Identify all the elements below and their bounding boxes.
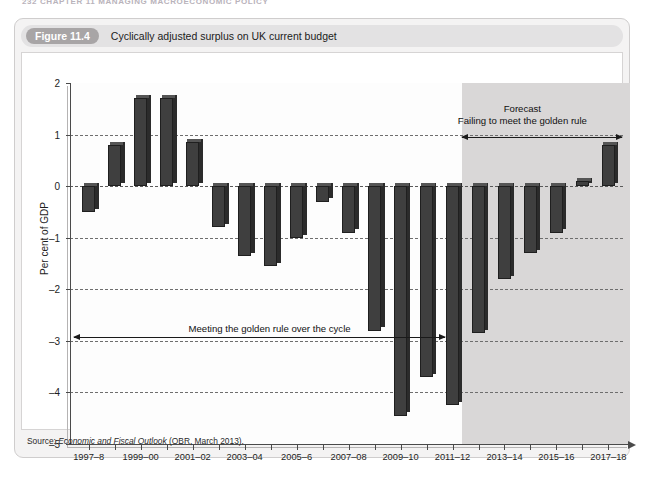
bar-side-face: [615, 142, 618, 183]
x-axis-shadow: [67, 447, 627, 448]
x-tick-label: 2009–10: [382, 452, 418, 462]
x-tick-label: 2005–6: [281, 452, 312, 462]
bar-side-face: [563, 183, 566, 229]
bar-side-face: [511, 183, 514, 276]
x-tick-mark: [530, 444, 531, 450]
y-tick-mark: [66, 238, 71, 239]
figure-title: Cyclically adjusted surplus on UK curren…: [111, 30, 337, 42]
bar[interactable]: [420, 186, 434, 377]
y-axis: [70, 83, 71, 444]
x-tick-mark: [401, 444, 402, 450]
bar-side-face: [95, 183, 98, 209]
bar-side-face: [303, 183, 306, 235]
x-tick-label: 2013–14: [486, 452, 522, 462]
figure-number-badge: Figure 11.4: [26, 28, 99, 45]
bar[interactable]: [446, 186, 460, 405]
x-axis-arrow-icon: [628, 441, 636, 449]
bar[interactable]: [264, 186, 278, 266]
bar[interactable]: [238, 186, 252, 256]
meeting-arrow-line: [74, 337, 445, 338]
x-tick-mark: [504, 444, 505, 450]
x-tick-mark: [349, 444, 350, 450]
bar[interactable]: [342, 186, 356, 232]
x-tick-mark: [375, 444, 376, 450]
y-tick-mark: [66, 186, 71, 187]
x-tick-mark: [582, 444, 583, 450]
bar[interactable]: [524, 186, 538, 253]
x-tick-mark: [297, 444, 298, 450]
y-tick-label: –4: [36, 387, 60, 398]
y-tick-mark: [66, 341, 71, 342]
bar[interactable]: [316, 186, 330, 201]
x-tick-label: 2017–18: [590, 452, 626, 462]
gridline: [70, 289, 623, 290]
y-tick-mark: [66, 392, 71, 393]
bar-side-face: [355, 183, 358, 229]
bar-side-face: [277, 183, 280, 263]
x-tick-label: 2001–02: [175, 452, 211, 462]
x-tick-mark: [323, 444, 324, 450]
failing-arrow-line: [462, 137, 622, 138]
gridline: [70, 341, 623, 342]
figure-card: Figure 11.4 Cyclically adjusted surplus …: [14, 18, 630, 458]
y-tick-mark: [66, 83, 71, 84]
bar[interactable]: [498, 186, 512, 279]
annotation-forecast: Forecast: [504, 103, 541, 114]
gridline: [70, 135, 623, 136]
source-rest: (OBR, March 2013).: [167, 436, 244, 446]
bar[interactable]: [212, 186, 226, 227]
meeting-arrow-left-head-icon: [73, 334, 80, 340]
bar[interactable]: [472, 186, 486, 333]
bar[interactable]: [602, 145, 616, 186]
bar-side-face: [459, 183, 462, 402]
bar-side-face: [225, 183, 228, 224]
source-note: Source: Economic and Fiscal Outlook (OBR…: [27, 436, 244, 446]
bar-side-face: [381, 183, 384, 327]
bar[interactable]: [186, 142, 200, 186]
x-tick-label: 2015–16: [538, 452, 574, 462]
x-tick-label: 1999–00: [123, 452, 159, 462]
x-tick-label: 2003–04: [227, 452, 263, 462]
annotation-meeting-golden-rule: Meeting the golden rule over the cycle: [188, 323, 350, 334]
annotation-failing-golden-rule: Failing to meet the golden rule: [458, 115, 587, 126]
y-tick-label: 1: [36, 129, 60, 140]
bar-side-face: [485, 183, 488, 330]
failing-arrow-right-head-icon: [616, 134, 623, 140]
bar[interactable]: [160, 98, 174, 186]
failing-arrow-left-head-icon: [461, 134, 468, 140]
bar-side-face: [407, 183, 410, 412]
bar[interactable]: [108, 145, 122, 186]
bar-side-face: [199, 139, 202, 183]
bar-side-face: [537, 183, 540, 250]
bar[interactable]: [290, 186, 304, 238]
bar[interactable]: [368, 186, 382, 330]
chart-canvas: 210–1–2–3–4–5 1997–81999–002001–022003–0…: [22, 53, 622, 429]
gridline: [70, 392, 623, 393]
y-axis-title: Per cent of GDP: [39, 169, 50, 309]
bar[interactable]: [576, 181, 590, 186]
chart-plot-area: 210–1–2–3–4–5 1997–81999–002001–022003–0…: [21, 52, 623, 430]
x-tick-label: 1997–8: [73, 452, 104, 462]
x-tick-mark: [245, 444, 246, 450]
bar-side-face: [121, 142, 124, 183]
bar[interactable]: [394, 186, 408, 415]
bar[interactable]: [134, 98, 148, 186]
bar[interactable]: [550, 186, 564, 232]
x-tick-mark: [556, 444, 557, 450]
running-head: 232 CHAPTER 11 MANAGING MACROECONOMIC PO…: [22, 0, 268, 6]
x-tick-mark: [271, 444, 272, 450]
meeting-arrow-right-head-icon: [439, 334, 446, 340]
x-tick-mark: [608, 444, 609, 450]
source-prefix: Source:: [27, 436, 58, 446]
x-tick-mark: [427, 444, 428, 450]
y-tick-label: –3: [36, 335, 60, 346]
bar-side-face: [147, 95, 150, 183]
bar-side-face: [251, 183, 254, 253]
bar[interactable]: [82, 186, 96, 212]
bar-side-face: [433, 183, 436, 374]
x-tick-label: 2011–12: [435, 452, 471, 462]
y-tick-label: 2: [36, 78, 60, 89]
bar-side-face: [173, 95, 176, 183]
x-tick-label: 2007–08: [330, 452, 366, 462]
x-tick-mark: [479, 444, 480, 450]
